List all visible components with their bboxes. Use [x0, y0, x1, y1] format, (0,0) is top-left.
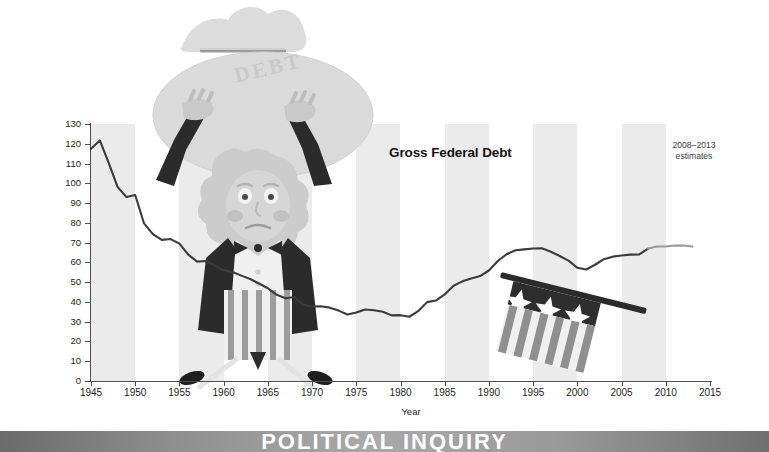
data-series-layer	[0, 0, 769, 452]
estimates-annotation-line2: estimates	[651, 151, 737, 162]
estimates-annotation-line1: 2008–2013	[651, 140, 737, 151]
series-line-estimates	[648, 246, 692, 249]
x-axis-title: Year	[381, 406, 441, 417]
series-line-gross-federal-debt	[91, 140, 648, 316]
estimates-annotation: 2008–2013 estimates	[651, 140, 737, 161]
figure-gross-federal-debt: DEBT 0102030405060708090100110120130 194…	[0, 0, 769, 452]
series-title: Gross Federal Debt	[389, 145, 512, 160]
banner-title: POLITICAL INQUIRY	[0, 431, 769, 452]
section-banner: POLITICAL INQUIRY	[0, 431, 769, 452]
